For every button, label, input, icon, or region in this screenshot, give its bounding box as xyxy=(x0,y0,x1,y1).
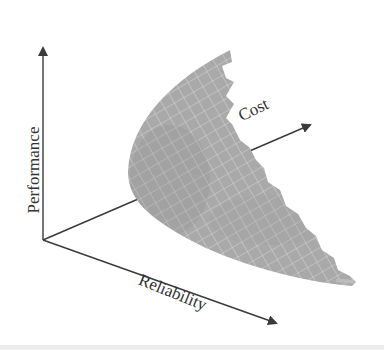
performance-axis-label: Performance xyxy=(24,127,44,214)
bottom-divider xyxy=(0,345,384,350)
tradeoff-surface xyxy=(100,40,370,300)
